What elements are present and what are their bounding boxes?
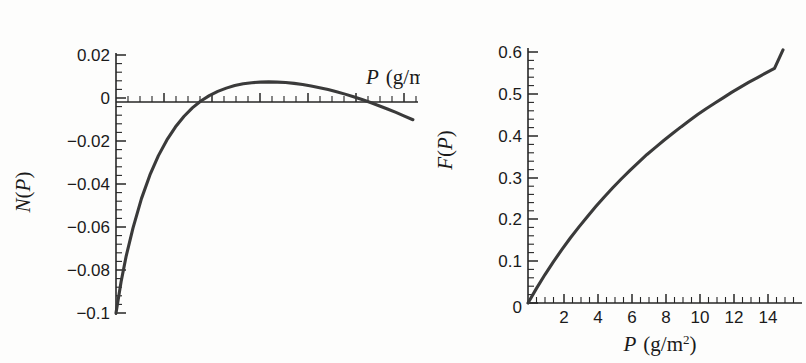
left-plot-svg: 0.02 0 −0.02 −0.04 −0.06 −0.08 −0.1 N(P)… [0, 0, 420, 363]
right-ytick-label-5: 0.1 [498, 252, 522, 271]
right-ytick-label-4: 0.2 [498, 210, 522, 229]
figure-container: 0.02 0 −0.02 −0.04 −0.06 −0.08 −0.1 N(P)… [0, 0, 806, 363]
left-ytick-label-5: −0.08 [67, 261, 110, 280]
right-y-major-ticks [528, 52, 538, 303]
left-ytick-label-0: 0.02 [77, 46, 110, 65]
right-x-minor-ticks [537, 297, 794, 303]
right-xtick-label-14: 14 [759, 308, 778, 327]
left-plot-panel: 0.02 0 −0.02 −0.04 −0.06 −0.08 −0.1 N(P)… [0, 0, 420, 363]
right-ytick-label-0: 0.6 [498, 43, 522, 62]
left-x-axis-title: P(g/m2) [365, 65, 420, 90]
right-xtick-label-6: 6 [627, 308, 636, 327]
left-ytick-label-1: 0 [101, 89, 110, 108]
right-xtick-label-8: 8 [661, 308, 670, 327]
right-x-major-ticks [564, 294, 768, 303]
svg-text:F(P): F(P) [433, 130, 457, 171]
right-y-title-arg: P [433, 137, 457, 151]
left-y-title-open: ( [11, 191, 35, 198]
left-y-axis-title: N(P) [11, 172, 35, 214]
right-x-title-close: ) [690, 332, 697, 356]
right-ytick-label-1: 0.5 [498, 85, 522, 104]
right-plot-panel: 0.6 0.5 0.4 0.3 0.2 0.1 0 2 4 6 8 10 12 … [420, 0, 806, 363]
right-curve-F-of-P [528, 50, 783, 303]
left-y-title-close: ) [11, 172, 35, 179]
left-ytick-label-6: −0.1 [76, 304, 110, 323]
left-ytick-label-2: −0.02 [67, 132, 110, 151]
right-y-title-close: ) [433, 130, 457, 137]
right-xtick-label-2: 2 [559, 308, 568, 327]
right-x-title-var: P [623, 332, 637, 356]
right-y-title-var: F [433, 157, 457, 171]
left-x-ticks [128, 93, 416, 102]
right-xtick-label-4: 4 [593, 308, 602, 327]
left-ytick-label-4: −0.06 [67, 218, 110, 237]
left-y-title-arg: P [11, 178, 35, 192]
right-ytick-label-2: 0.4 [498, 127, 522, 146]
left-ytick-label-3: −0.04 [67, 175, 110, 194]
svg-text:N(P): N(P) [11, 172, 35, 214]
right-ytick-label-3: 0.3 [498, 169, 522, 188]
left-curve-N-of-P [116, 82, 413, 313]
right-x-axis-title: P(g/m2) [623, 332, 697, 357]
right-xtick-label-10: 10 [691, 308, 710, 327]
right-y-axis-title: F(P) [433, 130, 457, 171]
right-y-title-open: ( [433, 150, 457, 157]
right-x-title-unit: (g/m [643, 332, 683, 356]
right-plot-svg: 0.6 0.5 0.4 0.3 0.2 0.1 0 2 4 6 8 10 12 … [420, 0, 806, 363]
right-xtick-label-12: 12 [725, 308, 744, 327]
right-ytick-label-origin: 0 [513, 298, 522, 317]
left-x-title-unit: (g/m [386, 65, 420, 89]
left-x-title-var: P [365, 65, 379, 89]
left-y-title-var: N [11, 197, 35, 213]
